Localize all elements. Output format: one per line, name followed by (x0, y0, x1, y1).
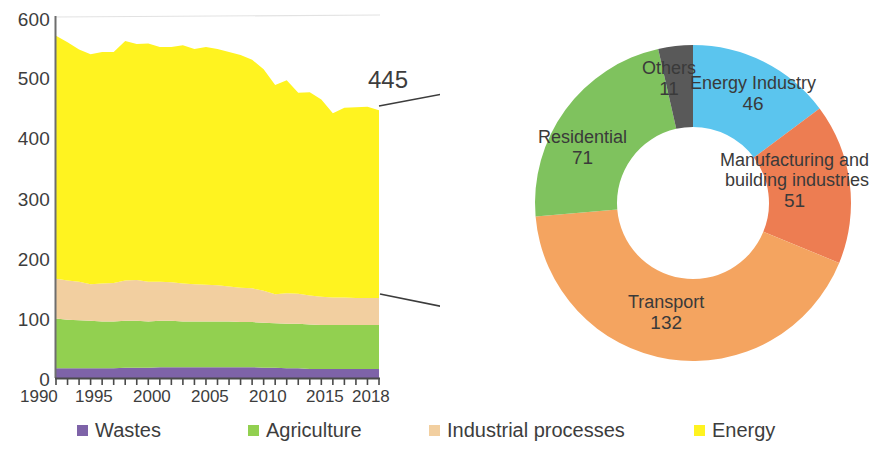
donut-label-manufacturing-line1: Manufacturing and (720, 150, 869, 170)
donut-label-energy-industry-text: Energy Industry (690, 73, 816, 93)
legend-swatch-icon-agriculture (248, 425, 259, 436)
donut-label-others-text: Others (642, 58, 696, 78)
legend-label-industrial-processes: Industrial processes (447, 420, 625, 440)
donut-label-manufacturing: Manufacturing and building industries 51 (720, 150, 869, 212)
x-tick-2015: 2015 (306, 388, 344, 405)
chart-canvas: 600 500 400 300 200 100 0 445 1990 (0, 0, 891, 450)
legend-label-energy: Energy (712, 420, 775, 440)
legend-item-energy[interactable]: Energy (694, 420, 775, 440)
x-tick-1990: 1990 (20, 388, 58, 405)
donut-label-manufacturing-line2: building industries (725, 170, 869, 190)
donut-label-transport-value: 132 (628, 312, 704, 333)
donut-label-others: Others 11 (642, 58, 696, 99)
area-series-group (56, 36, 379, 378)
donut-label-residential-value: 71 (538, 147, 627, 168)
donut-label-residential: Residential 71 (538, 127, 627, 168)
x-tick-2000: 2000 (133, 388, 171, 405)
x-tick-1995: 1995 (75, 388, 113, 405)
area-band-agriculture (56, 318, 379, 369)
legend-swatch-icon-industrial-processes (429, 425, 440, 436)
donut-label-transport-text: Transport (628, 292, 704, 312)
area-plot-svg (0, 0, 440, 412)
x-axis-ticks (56, 379, 379, 385)
stacked-area-chart: 600 500 400 300 200 100 0 445 1990 (0, 0, 440, 412)
legend-swatch-icon-energy (694, 425, 705, 436)
donut-label-energy-industry: Energy Industry 46 (690, 73, 816, 114)
callout-leader-line-bottom (380, 294, 440, 352)
legend-label-wastes: Wastes (95, 420, 161, 440)
legend-label-agriculture: Agriculture (266, 420, 362, 440)
x-axis-tick-labels: 1990 1995 2000 2005 2010 2015 2018 (0, 388, 440, 412)
chart-legend: Wastes Agriculture Industrial processes … (0, 418, 891, 450)
donut-label-manufacturing-value: 51 (720, 190, 869, 211)
donut-label-residential-text: Residential (538, 127, 627, 147)
donut-label-transport: Transport 132 (628, 292, 704, 333)
donut-label-energy-industry-value: 46 (690, 93, 816, 114)
donut-chart: Others 11 Energy Industry 46 Manufacturi… (500, 20, 891, 390)
area-total-callout-label: 445 (368, 68, 408, 92)
x-tick-2018: 2018 (352, 388, 390, 405)
legend-item-industrial-processes[interactable]: Industrial processes (429, 420, 625, 440)
gridline-600 (55, 15, 380, 17)
legend-item-wastes[interactable]: Wastes (77, 420, 161, 440)
x-tick-2005: 2005 (191, 388, 229, 405)
legend-item-agriculture[interactable]: Agriculture (248, 420, 362, 440)
area-band-energy (56, 36, 379, 298)
x-tick-2010: 2010 (249, 388, 287, 405)
donut-label-others-value: 11 (642, 78, 696, 99)
legend-swatch-icon-wastes (77, 425, 88, 436)
